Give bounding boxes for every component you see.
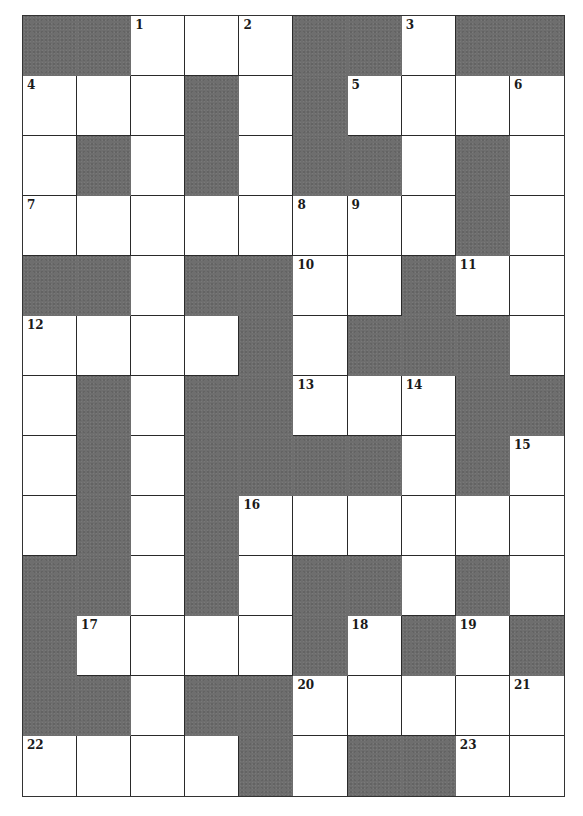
black-square xyxy=(293,556,347,616)
grid-cell[interactable]: 4 xyxy=(23,76,77,136)
grid-cell[interactable] xyxy=(77,76,131,136)
grid-cell[interactable] xyxy=(185,736,239,796)
black-square xyxy=(348,556,402,616)
clue-number: 19 xyxy=(460,619,477,631)
black-square xyxy=(239,676,293,736)
grid-cell[interactable] xyxy=(131,196,185,256)
black-square xyxy=(77,436,131,496)
black-square xyxy=(185,556,239,616)
grid-cell[interactable] xyxy=(456,76,510,136)
grid-cell[interactable] xyxy=(131,376,185,436)
grid-cell[interactable]: 8 xyxy=(293,196,347,256)
black-square xyxy=(23,616,77,676)
grid-cell[interactable] xyxy=(131,76,185,136)
grid-cell[interactable] xyxy=(23,496,77,556)
grid-cell[interactable] xyxy=(348,256,402,316)
grid-cell[interactable]: 22 xyxy=(23,736,77,796)
grid-cell[interactable] xyxy=(23,136,77,196)
grid-cell[interactable]: 6 xyxy=(510,76,564,136)
grid-cell[interactable] xyxy=(510,196,564,256)
grid-cell[interactable]: 18 xyxy=(348,616,402,676)
grid-cell[interactable] xyxy=(402,196,456,256)
grid-cell[interactable] xyxy=(23,376,77,436)
clue-number: 14 xyxy=(406,379,423,391)
black-square xyxy=(23,256,77,316)
grid-cell[interactable] xyxy=(402,496,456,556)
grid-cell[interactable]: 5 xyxy=(348,76,402,136)
grid-cell[interactable]: 15 xyxy=(510,436,564,496)
grid-cell[interactable] xyxy=(348,376,402,436)
black-square xyxy=(348,736,402,796)
grid-cell[interactable] xyxy=(131,436,185,496)
grid-cell[interactable]: 14 xyxy=(402,376,456,436)
black-square xyxy=(185,376,239,436)
black-square xyxy=(402,616,456,676)
grid-cell[interactable] xyxy=(293,316,347,376)
grid-cell[interactable] xyxy=(293,736,347,796)
grid-cell[interactable]: 11 xyxy=(456,256,510,316)
grid-cell[interactable]: 9 xyxy=(348,196,402,256)
grid-cell[interactable] xyxy=(402,136,456,196)
grid-cell[interactable] xyxy=(293,496,347,556)
grid-cell[interactable] xyxy=(239,76,293,136)
grid-cell[interactable] xyxy=(402,436,456,496)
grid-cell[interactable] xyxy=(402,556,456,616)
black-square xyxy=(23,556,77,616)
grid-cell[interactable] xyxy=(510,136,564,196)
grid-cell[interactable] xyxy=(185,196,239,256)
clue-number: 11 xyxy=(460,259,477,271)
grid-cell[interactable] xyxy=(456,496,510,556)
grid-cell[interactable] xyxy=(185,316,239,376)
grid-cell[interactable] xyxy=(510,736,564,796)
grid-cell[interactable] xyxy=(510,256,564,316)
grid-cell[interactable] xyxy=(131,136,185,196)
grid-cell[interactable]: 19 xyxy=(456,616,510,676)
grid-cell[interactable] xyxy=(239,556,293,616)
grid-cell[interactable] xyxy=(185,16,239,76)
grid-cell[interactable]: 3 xyxy=(402,16,456,76)
grid-cell[interactable] xyxy=(510,496,564,556)
grid-cell[interactable]: 10 xyxy=(293,256,347,316)
grid-cell[interactable] xyxy=(239,196,293,256)
grid-cell[interactable] xyxy=(131,316,185,376)
grid-cell[interactable]: 17 xyxy=(77,616,131,676)
grid-cell[interactable]: 1 xyxy=(131,16,185,76)
grid-cell[interactable] xyxy=(131,736,185,796)
grid-cell[interactable] xyxy=(131,256,185,316)
black-square xyxy=(402,316,456,376)
grid-cell[interactable]: 2 xyxy=(239,16,293,76)
grid-cell[interactable] xyxy=(131,616,185,676)
grid-cell[interactable] xyxy=(77,196,131,256)
grid-cell[interactable] xyxy=(239,616,293,676)
grid-cell[interactable] xyxy=(77,736,131,796)
grid-cell[interactable] xyxy=(185,616,239,676)
grid-cell[interactable]: 21 xyxy=(510,676,564,736)
black-square xyxy=(402,256,456,316)
grid-cell[interactable] xyxy=(402,676,456,736)
grid-cell[interactable]: 13 xyxy=(293,376,347,436)
grid-cell[interactable] xyxy=(77,316,131,376)
grid-cell[interactable] xyxy=(23,436,77,496)
grid-cell[interactable] xyxy=(510,556,564,616)
grid-cell[interactable] xyxy=(131,676,185,736)
grid-cell[interactable] xyxy=(402,76,456,136)
grid-cell[interactable] xyxy=(239,136,293,196)
clue-number: 4 xyxy=(27,79,35,91)
clue-number: 23 xyxy=(460,739,477,751)
grid-cell[interactable] xyxy=(456,676,510,736)
clue-number: 5 xyxy=(352,79,360,91)
grid-cell[interactable]: 20 xyxy=(293,676,347,736)
grid-cell[interactable]: 7 xyxy=(23,196,77,256)
black-square xyxy=(456,436,510,496)
grid-cell[interactable] xyxy=(348,496,402,556)
grid-cell[interactable]: 16 xyxy=(239,496,293,556)
black-square xyxy=(77,556,131,616)
grid-cell[interactable]: 23 xyxy=(456,736,510,796)
grid-cell[interactable] xyxy=(131,556,185,616)
grid-cell[interactable] xyxy=(131,496,185,556)
black-square xyxy=(77,256,131,316)
clue-number: 15 xyxy=(514,439,531,451)
grid-cell[interactable] xyxy=(348,676,402,736)
grid-cell[interactable] xyxy=(510,316,564,376)
grid-cell[interactable]: 12 xyxy=(23,316,77,376)
